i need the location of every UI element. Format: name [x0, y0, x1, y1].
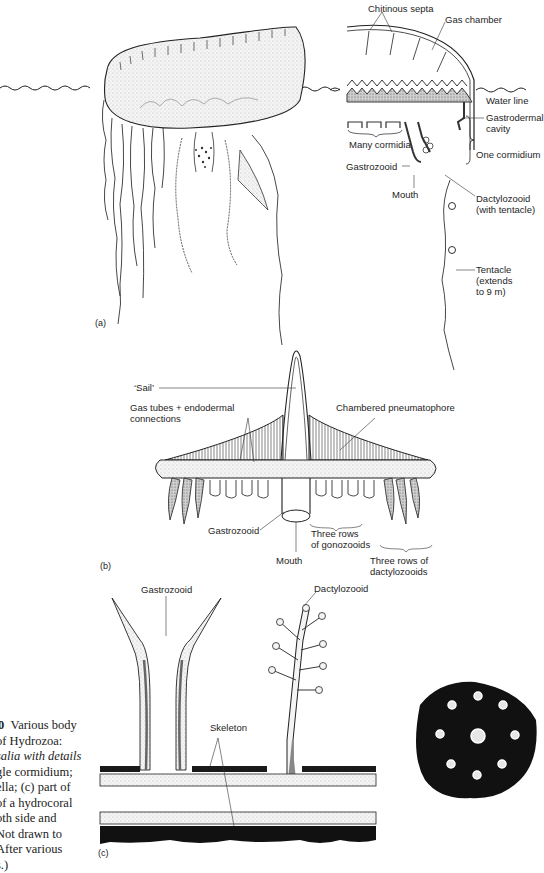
label-chitinous-septa: Chitinous septa: [368, 3, 433, 14]
caption-line: Not drawn to: [0, 827, 100, 843]
label-gas-tubes-2: connections: [130, 413, 181, 424]
label-sail: ‘Sail’: [134, 382, 154, 393]
label-skeleton: Skeleton: [210, 722, 247, 733]
panel-tag-b: (b): [100, 561, 111, 571]
label-dactylozooids: Three rows of: [370, 555, 428, 566]
label-gas-chamber: Gas chamber: [445, 14, 502, 25]
caption-line: oth side and: [0, 811, 100, 827]
panel-tag-a: (a): [95, 318, 106, 328]
label-gastrozooid-c: Gastrozooid: [141, 584, 192, 595]
caption-line: Various body: [11, 718, 77, 732]
label-mouth-b: Mouth: [276, 555, 302, 566]
label-dactylozooids-2: dactylozooids: [370, 566, 428, 577]
label-water-line: Water line: [486, 95, 528, 106]
label-gonozooids: Three rows: [311, 528, 359, 539]
label-gastrodermal-cavity: Gastrodermal: [486, 112, 544, 123]
hydrocoral-section-illustration: [100, 592, 376, 844]
label-tentacle: Tentacle: [476, 264, 511, 275]
label-gonozooids-2: of gonozooids: [311, 539, 370, 550]
label-tentacle-3: to 9 m): [476, 286, 506, 297]
label-chambered-pneumatophore: Chambered pneumatophore: [336, 402, 455, 413]
caption-line: s.): [0, 858, 100, 873]
label-gastrozooid-b: Gastrozooid: [208, 525, 259, 536]
figure-caption: 0 Various body of Hydrozoa: salia with d…: [0, 718, 100, 873]
label-dactylozooid-a-2: (with tentacle): [476, 204, 535, 215]
label-gastrodermal-cavity-2: cavity: [486, 123, 510, 134]
physalia-section-illustration: [330, 12, 526, 370]
label-gas-tubes: Gas tubes + endodermal: [130, 402, 234, 413]
label-gastrozooid-a: Gastrozooid: [346, 161, 397, 172]
caption-line: of a hydrocoral: [0, 796, 100, 812]
caption-line: After various: [0, 842, 100, 858]
label-one-cormidium: One cormidium: [476, 149, 540, 160]
caption-line: gle cormidium;: [0, 765, 100, 781]
caption-line: of Hydrozoa:: [0, 734, 100, 750]
label-tentacle-2: (extends: [476, 275, 512, 286]
hydrocoral-surface-view: [416, 682, 537, 798]
label-dactylozooid-a: Dactylozooid: [476, 193, 530, 204]
label-many-cormidia: Many cormidia: [349, 139, 411, 150]
caption-line: ella; (c) part of: [0, 780, 100, 796]
velella-illustration: [155, 351, 436, 552]
caption-number: 0: [0, 718, 4, 732]
label-mouth-a: Mouth: [392, 189, 418, 200]
label-dactylozooid-c: Dactylozooid: [314, 583, 368, 594]
physalia-whole-illustration: [0, 27, 340, 345]
caption-line: salia with details: [0, 749, 100, 765]
